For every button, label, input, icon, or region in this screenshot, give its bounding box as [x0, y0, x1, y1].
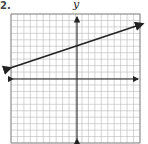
coordinate-graph: [0, 0, 148, 144]
